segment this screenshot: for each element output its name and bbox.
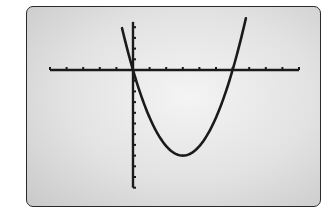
parabola-curve <box>122 18 246 155</box>
y-axis <box>133 22 136 188</box>
x-axis <box>50 67 299 70</box>
graph-plot <box>0 0 329 220</box>
